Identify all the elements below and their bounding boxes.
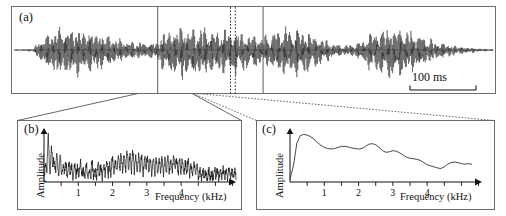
tick-label: 3 — [141, 187, 153, 198]
scale-bar-label: 100 ms — [412, 70, 447, 85]
panel-c-axes — [287, 128, 482, 186]
panel-c-spectrum-curve — [290, 134, 472, 179]
tick-label: 1 — [72, 187, 84, 198]
panel-c-label: (c) — [262, 122, 276, 137]
tick-label: 4 — [421, 187, 433, 198]
figure-svg — [0, 0, 506, 216]
panel-b-label: (b) — [24, 122, 39, 137]
tick-label: 1 — [318, 187, 330, 198]
panel-a-label: (a) — [19, 10, 33, 25]
panel-b-x-axis-label: Frequency (kHz) — [155, 191, 226, 202]
scale-bar — [410, 86, 476, 91]
panel-b-spectrum-curve — [44, 133, 236, 181]
tick-label: 3 — [387, 187, 399, 198]
connector-lines-solid — [18, 94, 242, 121]
tick-label: 2 — [107, 187, 119, 198]
panel-b-y-axis-label: Amplitude — [35, 153, 46, 198]
tick-label: 4 — [175, 187, 187, 198]
figure-container: (a) (b) (c) 100 ms Amplitude Frequency (… — [0, 0, 506, 216]
panel-c-x-axis-label: Frequency (kHz) — [400, 191, 471, 202]
connector-lines-dotted — [193, 94, 495, 121]
tick-label: 2 — [353, 187, 365, 198]
panel-c-y-axis-label: Amplitude — [274, 153, 285, 198]
